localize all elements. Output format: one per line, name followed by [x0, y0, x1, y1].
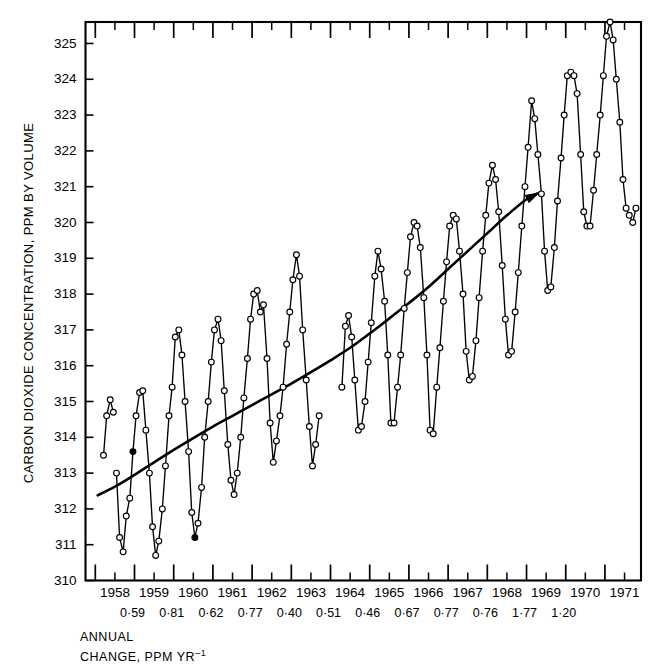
data-point-marker [496, 209, 502, 215]
annual-change-value-5: 0·51 [316, 606, 341, 620]
trend-line-path [98, 193, 539, 495]
data-point-marker [300, 327, 306, 333]
y-axis-ticks [86, 43, 94, 580]
plot-area-border [86, 22, 642, 581]
x-axis-tick-labels: 1958195919601961196219631964196519661967… [100, 585, 640, 600]
x-tick-label-1966: 1966 [413, 585, 443, 600]
data-point-marker [172, 334, 178, 340]
data-point-marker [228, 477, 234, 483]
data-point-marker [591, 187, 597, 193]
data-point-marker [502, 316, 508, 322]
data-point-marker [604, 33, 610, 39]
data-point-marker [441, 298, 447, 304]
figure-keeling-curve: 3103113123133143153163173183193203213223… [0, 0, 671, 672]
y-tick-label-325: 325 [54, 36, 77, 51]
secular-trend-line [98, 192, 540, 495]
y-tick-label-321: 321 [54, 179, 77, 194]
data-point-marker [346, 313, 352, 319]
y-tick-label-320: 320 [54, 215, 77, 230]
data-point-marker [434, 384, 440, 390]
monthly-data-markers [101, 19, 639, 558]
data-point-marker [245, 356, 251, 362]
data-point-marker [519, 223, 525, 229]
y-tick-label-314: 314 [54, 429, 77, 444]
y-tick-label-317: 317 [54, 322, 77, 337]
data-point-marker [574, 91, 580, 97]
annual-change-value-1: 0·81 [159, 606, 184, 620]
data-point-marker [535, 152, 541, 158]
caption-superscript: –1 [195, 648, 206, 658]
data-point-marker [404, 270, 410, 276]
y-tick-label-313: 313 [54, 465, 77, 480]
data-point-marker [630, 220, 636, 226]
data-point-marker [159, 506, 165, 512]
data-point-marker [238, 434, 244, 440]
data-point-marker [613, 76, 619, 82]
annual-change-caption-line2: CHANGE, PPM YR–1 [80, 648, 206, 664]
annual-change-value-3: 0·77 [238, 606, 263, 620]
data-point-marker [447, 223, 453, 229]
data-point-marker [202, 434, 208, 440]
annual-change-value-4: 0·40 [277, 606, 302, 620]
data-point-marker [395, 384, 401, 390]
data-point-marker [231, 492, 237, 498]
x-tick-label-1969: 1969 [531, 585, 561, 600]
annual-change-value-10: 1·77 [512, 606, 537, 620]
data-point-marker [408, 234, 414, 240]
annual-change-value-7: 0·67 [394, 606, 419, 620]
data-point-marker [212, 327, 218, 333]
data-point-marker [114, 470, 120, 476]
annual-change-values: 0·590·810·620·770·400·510·460·670·770·76… [120, 606, 576, 620]
data-point-marker [453, 216, 459, 222]
data-point-marker [597, 112, 603, 118]
data-point-marker [365, 359, 371, 365]
data-point-marker [208, 359, 214, 365]
data-point-marker [375, 248, 381, 254]
data-point-marker [101, 452, 107, 458]
data-point-marker [623, 205, 629, 211]
data-point-marker [264, 356, 270, 362]
data-point-marker [140, 388, 146, 394]
data-point-marker [539, 191, 545, 197]
data-point-marker [499, 263, 505, 269]
data-point-marker [277, 413, 283, 419]
data-point-marker [460, 291, 466, 297]
data-point-marker [267, 420, 273, 426]
data-point-marker [444, 259, 450, 265]
y-tick-label-310: 310 [54, 573, 77, 588]
x-tick-label-1961: 1961 [217, 585, 247, 600]
data-point-marker [221, 388, 227, 394]
data-point-marker [280, 384, 286, 390]
annual-change-value-0: 0·59 [120, 606, 145, 620]
data-point-marker [515, 270, 521, 276]
data-point-marker [294, 252, 300, 258]
data-point-marker [303, 377, 309, 383]
x-tick-label-1971: 1971 [610, 585, 640, 600]
data-point-marker [558, 155, 564, 161]
data-point-marker [417, 245, 423, 251]
data-point-marker [561, 112, 567, 118]
y-tick-label-311: 311 [55, 537, 77, 552]
data-point-marker [359, 424, 365, 430]
y-tick-label-315: 315 [54, 394, 77, 409]
data-point-marker [378, 266, 384, 272]
data-point-marker [391, 420, 397, 426]
data-point-marker [571, 73, 577, 79]
data-point-marker [352, 377, 358, 383]
data-point-marker [205, 399, 211, 405]
data-point-marker [421, 295, 427, 301]
monthly-co2-series [104, 22, 636, 555]
data-point-marker [542, 248, 548, 254]
annual-change-value-6: 0·46 [355, 606, 380, 620]
x-tick-label-1958: 1958 [100, 585, 130, 600]
x-tick-label-1959: 1959 [139, 585, 169, 600]
data-point-marker [130, 449, 136, 455]
data-point-marker [607, 19, 613, 25]
data-point-marker [176, 327, 182, 333]
data-point-marker [123, 513, 129, 519]
data-point-marker [270, 459, 276, 465]
data-point-marker [548, 284, 554, 290]
data-point-marker [551, 245, 557, 251]
data-point-marker [493, 177, 499, 183]
data-point-marker [457, 248, 463, 254]
